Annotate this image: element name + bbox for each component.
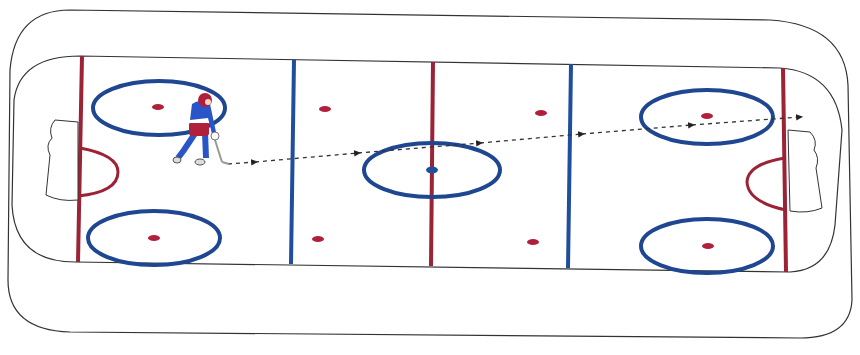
faceoff-dot xyxy=(148,235,160,241)
neutral-dot xyxy=(527,239,539,245)
faceoff-dot xyxy=(152,104,164,110)
neutral-dot xyxy=(535,110,547,116)
center-dot xyxy=(426,167,438,174)
rink-svg xyxy=(0,0,860,355)
neutral-dot xyxy=(319,106,331,112)
neutral-dot xyxy=(312,236,324,242)
center-red-line xyxy=(431,62,433,266)
hockey-rink-diagram xyxy=(0,0,860,355)
faceoff-dot xyxy=(701,113,713,119)
faceoff-dot xyxy=(702,243,714,249)
left-net-icon xyxy=(46,120,78,200)
